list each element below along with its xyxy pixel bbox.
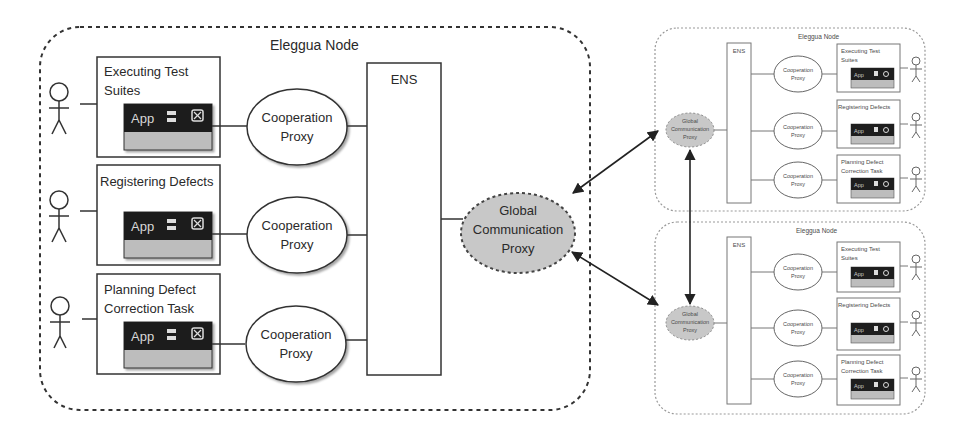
proxy-label-2: Proxy [280, 237, 314, 252]
ens-bus [367, 63, 441, 375]
task-title-1: Executing Test [841, 246, 880, 252]
actor-icon [910, 255, 922, 280]
task-row-executing-test-suites: Cooperation Proxy Executing Test Suites … [751, 242, 922, 292]
task-title-2: Suites [841, 255, 858, 261]
cooperation-proxy [774, 113, 822, 149]
proxy-label-2: Proxy [791, 380, 805, 386]
gcp-label-2: Communication [671, 126, 709, 132]
cooperation-proxy [774, 254, 822, 290]
cooperation-proxy [774, 310, 822, 346]
proxy-label-1: Cooperation [783, 67, 813, 73]
task-title-1: Executing Test [841, 48, 880, 54]
proxy-label-2: Proxy [279, 346, 313, 361]
gcp-label-3: Proxy [683, 327, 697, 333]
gcp-label-3: Proxy [683, 134, 697, 140]
actor-icon [49, 83, 69, 134]
task-row-executing-test-suites: Executing Test Suites App Cooperation Pr… [49, 57, 367, 165]
task-title-2: Correction Task [841, 368, 884, 374]
app-label: App [854, 271, 864, 277]
proxy-label-1: Cooperation [262, 218, 333, 233]
task-title-1: Registering Defects [100, 174, 214, 189]
task-title-2: Suites [841, 57, 858, 63]
maximize-icon [874, 181, 878, 186]
ens-bus [727, 43, 751, 203]
cooperation-proxy [247, 89, 347, 165]
actor-icon [910, 57, 922, 82]
gcp-label-1: Global [682, 311, 698, 317]
cooperation-proxy [247, 197, 347, 273]
proxy-label-2: Proxy [280, 129, 314, 144]
proxy-label-2: Proxy [791, 273, 805, 279]
task-title-1: Planning Defect [104, 282, 196, 297]
maximize-icon [874, 270, 878, 275]
task-row-registering-defects: Registering Defects App Cooperation Prox… [49, 165, 367, 273]
cooperation-proxy [774, 56, 822, 92]
app-label: App [854, 128, 864, 134]
actor-icon [49, 191, 69, 242]
proxy-label-2: Proxy [791, 75, 805, 81]
cooperation-proxy [774, 162, 822, 198]
gcp-label-1: Global [682, 118, 698, 124]
maximize-icon [874, 382, 878, 387]
proxy-label-1: Cooperation [783, 372, 813, 378]
proxy-label-1: Cooperation [262, 110, 333, 125]
actor-icon [910, 167, 922, 192]
task-title-2: Correction Task [104, 301, 195, 316]
remote-node-title: Eleggua Node [796, 227, 838, 235]
link-main-to-remote-2 [572, 252, 658, 305]
maximize-icon [874, 326, 878, 331]
architecture-diagram: Eleggua Node ENS Global Communication Pr… [0, 0, 962, 426]
proxy-label-1: Cooperation [261, 327, 332, 342]
task-title-1: Registering Defects [838, 302, 890, 308]
actor-icon [910, 367, 922, 392]
task-title-1: Planning Defect [841, 159, 884, 165]
remote-eleggua-node-2: Eleggua Node ENS Global Communication Pr… [655, 222, 925, 414]
gcp-label-2: Communication [671, 319, 709, 325]
task-row-planning-defect-correction: Cooperation Proxy Planning Defect Correc… [751, 355, 922, 405]
app-label: App [131, 329, 154, 344]
task-title-2: Suites [104, 83, 141, 98]
ens-label: ENS [733, 48, 745, 54]
remote-eleggua-node-1: Eleggua Node ENS Global Communication Pr… [655, 28, 925, 211]
actor-icon [910, 113, 922, 138]
cooperation-proxy [774, 361, 822, 397]
main-node-title: Eleggua Node [270, 37, 359, 53]
app-label: App [854, 72, 864, 78]
task-title-1: Registering Defects [838, 104, 890, 110]
task-title-1: Executing Test [104, 64, 189, 79]
ens-bus [727, 237, 751, 404]
proxy-label-1: Cooperation [783, 124, 813, 130]
app-label: App [131, 219, 154, 234]
app-label: App [854, 383, 864, 389]
task-row-registering-defects: Cooperation Proxy Registering Defects Ap… [751, 298, 922, 350]
ens-label: ENS [733, 242, 745, 248]
proxy-label-1: Cooperation [783, 265, 813, 271]
gcp-label-3: Proxy [501, 241, 535, 256]
gcp-label-2: Communication [473, 222, 563, 237]
actor-icon [50, 297, 70, 348]
actor-icon [910, 311, 922, 336]
task-title-2: Correction Task [841, 168, 884, 174]
task-row-executing-test-suites: Cooperation Proxy Executing Test Suites … [751, 44, 922, 92]
app-label: App [131, 111, 154, 126]
task-row-registering-defects: Cooperation Proxy Registering Defects Ap… [751, 100, 922, 149]
cooperation-proxy [246, 306, 346, 382]
task-row-planning-defect-correction: Cooperation Proxy Planning Defect Correc… [751, 155, 922, 203]
app-label: App [854, 327, 864, 333]
proxy-label-1: Cooperation [783, 321, 813, 327]
main-eleggua-node: Eleggua Node ENS Global Communication Pr… [40, 27, 590, 410]
task-row-planning-defect-correction: Planning Defect Correction Task App Coop… [50, 274, 367, 382]
app-label: App [854, 182, 864, 188]
proxy-label-1: Cooperation [783, 173, 813, 179]
maximize-icon [874, 71, 878, 76]
proxy-label-2: Proxy [791, 132, 805, 138]
proxy-label-2: Proxy [791, 329, 805, 335]
task-title-1: Planning Defect [841, 359, 884, 365]
maximize-icon [874, 127, 878, 132]
ens-label: ENS [391, 72, 418, 87]
remote-node-title: Eleggua Node [798, 33, 840, 41]
gcp-label-1: Global [499, 203, 537, 218]
link-main-to-remote-1 [573, 131, 658, 193]
proxy-label-2: Proxy [791, 181, 805, 187]
